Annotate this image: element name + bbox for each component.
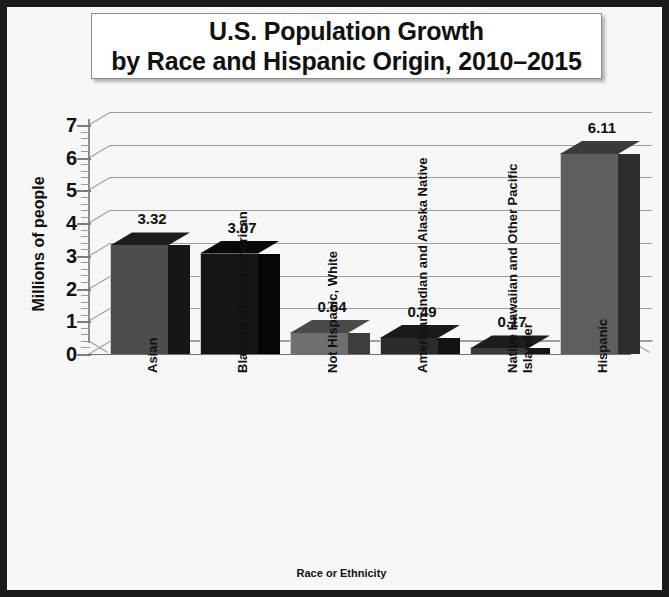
category-label: Not Hispanic, White (325, 251, 340, 373)
bar-side-face (168, 245, 190, 354)
y-axis-minor-tick (81, 315, 90, 316)
y-axis-minor-tick (81, 262, 90, 263)
y-axis-major-tick (77, 125, 91, 127)
gridline-depth-edge (88, 276, 111, 290)
floor-left-edge (88, 340, 108, 353)
bar-front-face (380, 337, 439, 354)
y-axis-major-tick (77, 223, 91, 225)
y-axis-minor-tick (81, 132, 90, 133)
y-axis-tick-label: 4 (49, 214, 77, 232)
gridline-depth-edge (88, 177, 111, 191)
bar-front-face (560, 153, 619, 354)
bar-front-face (110, 244, 169, 354)
y-axis-minor-tick (81, 249, 90, 250)
bar-side-face (258, 254, 280, 354)
chart-image: U.S. Population Growth by Race and Hispa… (0, 0, 669, 597)
bar-side-face (618, 154, 640, 354)
y-axis-minor-tick (81, 282, 90, 283)
y-axis-minor-tick (81, 217, 90, 218)
x-axis-title: Race or Ethnicity (7, 567, 669, 579)
gridline (109, 112, 652, 113)
floor-front-edge (88, 354, 631, 355)
y-axis-tick-label: 1 (49, 312, 77, 330)
y-axis-major-tick (77, 190, 91, 192)
bar-top-face (560, 141, 640, 154)
bar-front-face (200, 253, 259, 354)
y-axis-minor-tick (81, 138, 90, 139)
chart-title-line-2: by Race and Hispanic Origin, 2010–2015 (111, 46, 581, 76)
y-axis-minor-tick (81, 177, 90, 178)
chart-title-line-1: U.S. Population Growth (209, 16, 484, 46)
bar-side-face (438, 338, 460, 354)
y-axis-minor-tick (81, 230, 90, 231)
y-axis-title: Millions of people (30, 149, 48, 339)
y-axis-line (88, 119, 90, 343)
y-axis-minor-tick (81, 269, 90, 270)
y-axis-major-tick (77, 321, 91, 323)
bar-value-label: 3.32 (112, 210, 192, 227)
gridline-depth-edge (88, 308, 111, 322)
y-axis-minor-tick (81, 145, 90, 146)
y-axis-minor-tick (81, 204, 90, 205)
y-axis-tick-label: 0 (49, 345, 77, 363)
category-label: Native Hawaiian and Other Pacific Island… (505, 163, 535, 373)
gridline (109, 145, 652, 146)
y-axis-tick-labels: 76543210 (47, 85, 77, 555)
y-axis-tick-label: 2 (49, 280, 77, 298)
y-axis-minor-tick (81, 275, 90, 276)
bar-front-face (290, 332, 349, 354)
category-label: Asian (145, 338, 160, 373)
y-axis-tick-label: 5 (49, 181, 77, 199)
gridline-depth-edge (88, 210, 111, 224)
y-axis-minor-tick (81, 302, 90, 303)
gridline-depth-edge (88, 112, 111, 126)
y-axis-minor-tick (81, 164, 90, 165)
y-axis-tick-label: 3 (49, 247, 77, 265)
y-axis-minor-tick (81, 151, 90, 152)
y-axis-tick-label: 7 (49, 116, 77, 134)
y-axis-minor-tick (81, 334, 90, 335)
gridline-depth-edge (88, 243, 111, 257)
y-axis-major-tick (77, 256, 91, 258)
category-label: Black or African American (235, 211, 250, 373)
y-axis-minor-tick (81, 308, 90, 309)
y-axis-major-tick (77, 289, 91, 291)
y-axis-minor-tick (81, 328, 90, 329)
y-axis-minor-tick (81, 236, 90, 237)
bar-value-label: 6.11 (562, 119, 642, 136)
y-axis-major-tick (77, 158, 91, 160)
plot-area: Millions of people 76543210 3.323.070.64… (7, 85, 662, 555)
category-label: Hispanic (595, 319, 610, 373)
y-axis-minor-tick (81, 184, 90, 185)
y-axis-minor-tick (81, 171, 90, 172)
y-axis-tick-label: 6 (49, 149, 77, 167)
y-axis-minor-tick (81, 210, 90, 211)
chart-title-box: U.S. Population Growth by Race and Hispa… (91, 13, 602, 79)
y-axis-minor-tick (81, 243, 90, 244)
y-axis-minor-tick (81, 197, 90, 198)
gridline-depth-edge (88, 145, 111, 159)
bar-side-face (348, 333, 370, 354)
y-axis-minor-tick (81, 295, 90, 296)
category-label: American Indian and Alaska Native (415, 157, 430, 373)
